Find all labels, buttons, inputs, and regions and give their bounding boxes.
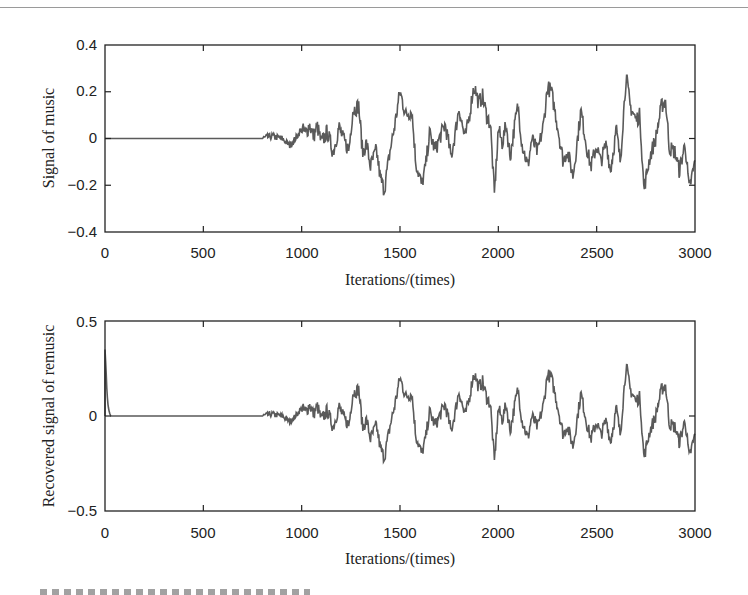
top-xtick-label: 0 bbox=[101, 244, 109, 261]
top-xtick-labels: 0 500 1000 1500 2000 2500 3000 bbox=[101, 244, 712, 261]
bottom-xtick-label: 1500 bbox=[383, 524, 416, 541]
bottom-xtick-label: 500 bbox=[190, 524, 215, 541]
bottom-ytick-label: 0.5 bbox=[76, 313, 97, 330]
bottom-ytick-label: −0.5 bbox=[67, 502, 97, 519]
bottom-ytick-label: 0 bbox=[89, 407, 97, 424]
bottom-xtick-labels: 0 500 1000 1500 2000 2500 3000 bbox=[101, 524, 712, 541]
top-signal-line bbox=[105, 75, 695, 195]
top-xtick-label: 2000 bbox=[481, 244, 514, 261]
bottom-plot: 0.5 0 −0.5 0 500 1000 1500 2000 2500 300… bbox=[40, 313, 712, 568]
top-ytick-label: −0.4 bbox=[67, 223, 97, 240]
bottom-xtick-label: 2500 bbox=[580, 524, 613, 541]
top-xtick-label: 1000 bbox=[285, 244, 318, 261]
bottom-xlabel: Iterations/(times) bbox=[345, 550, 455, 568]
top-plot: 0.4 0.2 0 −0.2 −0.4 0 500 1000 1500 2000… bbox=[40, 36, 712, 289]
bottom-signal-line bbox=[105, 350, 695, 463]
bottom-xtick-label: 1000 bbox=[285, 524, 318, 541]
bottom-xtick-label: 3000 bbox=[678, 524, 711, 541]
top-xtick-label: 2500 bbox=[580, 244, 613, 261]
figure: 0.4 0.2 0 −0.2 −0.4 0 500 1000 1500 2000… bbox=[0, 0, 748, 595]
bottom-xtick-label: 0 bbox=[101, 524, 109, 541]
top-ytick-label: 0.4 bbox=[76, 36, 97, 53]
bottom-xtick-label: 2000 bbox=[481, 524, 514, 541]
top-xtick-label: 3000 bbox=[678, 244, 711, 261]
top-ytick-label: −0.2 bbox=[67, 176, 97, 193]
top-ytick-label: 0.2 bbox=[76, 82, 97, 99]
top-ylabel: Signal of music bbox=[40, 88, 58, 188]
bottom-ylabel: Recovered signal of remusic bbox=[40, 325, 58, 508]
clipped-caption bbox=[40, 589, 310, 595]
top-xlabel: Iterations/(times) bbox=[345, 271, 455, 289]
top-xtick-label: 1500 bbox=[383, 244, 416, 261]
top-ytick-label: 0 bbox=[89, 129, 97, 146]
top-xtick-label: 500 bbox=[190, 244, 215, 261]
